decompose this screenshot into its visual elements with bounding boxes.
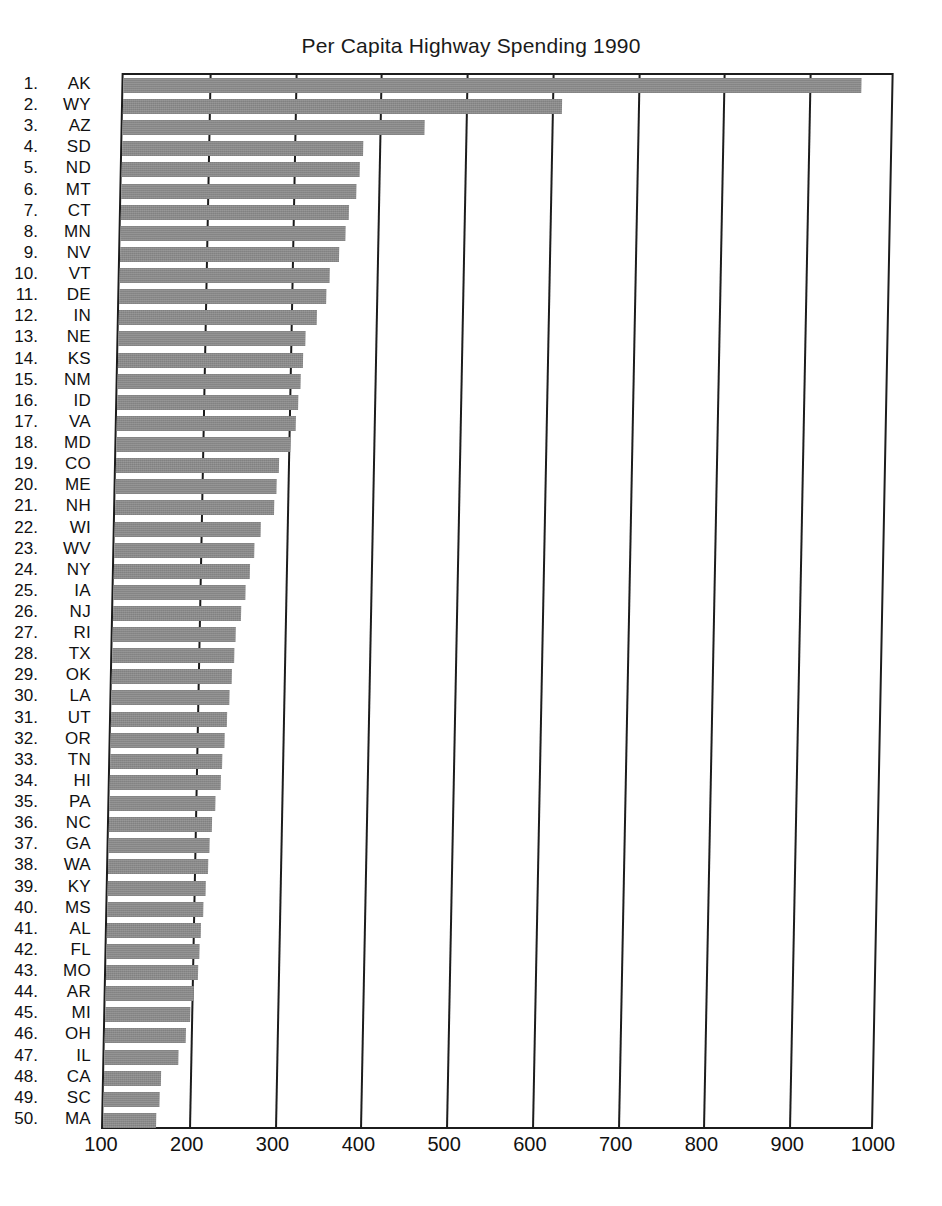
bar-ca[interactable]	[104, 1071, 162, 1086]
bar-row[interactable]	[117, 413, 889, 434]
bar-row[interactable]	[121, 181, 893, 202]
bar-fl[interactable]	[106, 944, 199, 959]
bar-row[interactable]	[110, 730, 882, 751]
bar-row[interactable]	[122, 159, 894, 180]
bar-sc[interactable]	[103, 1092, 159, 1107]
bar-row[interactable]	[109, 793, 881, 814]
bar-row[interactable]	[122, 117, 894, 138]
bar-ia[interactable]	[113, 585, 245, 600]
bar-me[interactable]	[115, 479, 277, 494]
bar-ri[interactable]	[113, 627, 236, 642]
bar-ga[interactable]	[108, 838, 209, 853]
bar-row[interactable]	[106, 941, 878, 962]
bar-ms[interactable]	[107, 902, 203, 917]
bar-az[interactable]	[122, 120, 424, 135]
bar-ny[interactable]	[114, 564, 251, 579]
bar-wy[interactable]	[123, 99, 562, 114]
bar-ak[interactable]	[123, 78, 861, 93]
bar-sd[interactable]	[122, 141, 363, 156]
bar-row[interactable]	[119, 265, 891, 286]
bar-mn[interactable]	[120, 226, 345, 241]
bar-or[interactable]	[110, 733, 224, 748]
bar-vt[interactable]	[120, 268, 330, 283]
bar-row[interactable]	[119, 286, 891, 307]
bar-row[interactable]	[123, 75, 895, 96]
bar-oh[interactable]	[105, 1028, 186, 1043]
bar-row[interactable]	[116, 434, 888, 455]
bar-wa[interactable]	[108, 859, 208, 874]
bar-row[interactable]	[107, 920, 879, 941]
bar-tx[interactable]	[112, 648, 234, 663]
bar-de[interactable]	[119, 289, 326, 304]
bar-row[interactable]	[103, 1110, 875, 1131]
bar-row[interactable]	[122, 138, 894, 159]
bar-nc[interactable]	[109, 817, 212, 832]
bar-row[interactable]	[108, 878, 880, 899]
bar-md[interactable]	[116, 437, 290, 452]
bar-mi[interactable]	[105, 1007, 190, 1022]
bar-row[interactable]	[118, 350, 890, 371]
bar-row[interactable]	[112, 645, 884, 666]
bar-nd[interactable]	[122, 162, 361, 177]
bar-id[interactable]	[117, 395, 298, 410]
bar-row[interactable]	[110, 772, 882, 793]
bar-row[interactable]	[120, 223, 892, 244]
bar-row[interactable]	[105, 983, 877, 1004]
bar-row[interactable]	[104, 1068, 876, 1089]
bar-row[interactable]	[120, 244, 892, 265]
bar-row[interactable]	[115, 519, 887, 540]
bar-ky[interactable]	[108, 881, 206, 896]
bar-row[interactable]	[112, 666, 884, 687]
bar-ma[interactable]	[103, 1113, 156, 1128]
bar-hi[interactable]	[110, 775, 221, 790]
bar-row[interactable]	[104, 1047, 876, 1068]
bar-row[interactable]	[115, 497, 887, 518]
bar-co[interactable]	[116, 458, 279, 473]
bar-row[interactable]	[113, 603, 885, 624]
bar-row[interactable]	[106, 962, 878, 983]
bar-al[interactable]	[107, 923, 202, 938]
bar-nj[interactable]	[113, 606, 241, 621]
bar-row[interactable]	[109, 814, 881, 835]
bar-row[interactable]	[111, 687, 883, 708]
bar-row[interactable]	[111, 709, 883, 730]
bar-mo[interactable]	[106, 965, 198, 980]
bar-row[interactable]	[105, 1025, 877, 1046]
bar-nm[interactable]	[117, 374, 300, 389]
bar-row[interactable]	[116, 455, 888, 476]
bar-wi[interactable]	[115, 522, 261, 537]
bar-row[interactable]	[113, 582, 885, 603]
bar-row[interactable]	[114, 540, 886, 561]
bar-row[interactable]	[108, 856, 880, 877]
bar-pa[interactable]	[109, 796, 215, 811]
bar-row[interactable]	[103, 1089, 875, 1110]
bar-wv[interactable]	[114, 543, 254, 558]
bar-ar[interactable]	[105, 986, 194, 1001]
bar-row[interactable]	[114, 561, 886, 582]
bar-row[interactable]	[112, 624, 884, 645]
bar-ne[interactable]	[118, 331, 305, 346]
bar-row[interactable]	[117, 392, 889, 413]
bar-tn[interactable]	[110, 754, 223, 769]
bar-ct[interactable]	[121, 205, 349, 220]
bar-ks[interactable]	[118, 353, 304, 368]
bar-row[interactable]	[108, 835, 880, 856]
bar-il[interactable]	[104, 1050, 178, 1065]
bar-row[interactable]	[110, 751, 882, 772]
bar-row[interactable]	[105, 1004, 877, 1025]
bar-mt[interactable]	[121, 184, 356, 199]
bar-va[interactable]	[117, 416, 297, 431]
bar-row[interactable]	[117, 371, 889, 392]
bar-nv[interactable]	[120, 247, 339, 262]
bar-ok[interactable]	[112, 669, 232, 684]
bar-row[interactable]	[119, 307, 891, 328]
bar-row[interactable]	[115, 476, 887, 497]
bar-row[interactable]	[121, 202, 893, 223]
bar-ut[interactable]	[111, 712, 227, 727]
bar-row[interactable]	[107, 899, 879, 920]
bar-la[interactable]	[111, 690, 229, 705]
bar-nh[interactable]	[115, 500, 274, 515]
bar-in[interactable]	[119, 310, 317, 325]
bar-row[interactable]	[118, 328, 890, 349]
bar-row[interactable]	[123, 96, 895, 117]
